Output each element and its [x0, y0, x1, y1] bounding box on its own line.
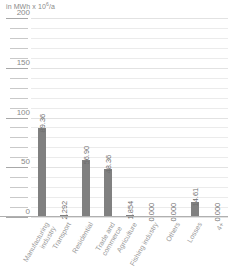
- gridline-minor: [31, 28, 228, 29]
- bar: [82, 160, 90, 217]
- y-tick-minor: [10, 157, 28, 158]
- bar-value-label: 56.90: [82, 146, 90, 165]
- bar-value-label: 14.61: [192, 188, 200, 207]
- gridline-minor: [31, 127, 228, 128]
- y-tick-minor: [10, 187, 28, 188]
- y-axis-unit-suffix: /a: [49, 3, 55, 10]
- y-tick-minor: [10, 108, 28, 109]
- gridline-minor: [31, 38, 228, 39]
- y-tick-minor: [10, 207, 28, 208]
- gridline-major: [31, 167, 228, 168]
- gridline-minor: [31, 108, 228, 109]
- gridline-major: [31, 68, 228, 69]
- gridline-minor: [31, 88, 228, 89]
- x-axis-label-line: Losses: [186, 221, 203, 244]
- x-axis-label-line: Residential: [70, 221, 93, 254]
- x-axis-baseline: [0, 216, 228, 217]
- y-tick-major: [6, 118, 28, 119]
- bar-value-label: 48.36: [104, 155, 112, 174]
- bar-value-label: 0.000: [170, 203, 178, 222]
- gridline-major: [31, 118, 228, 119]
- gridline-minor: [31, 78, 228, 79]
- gridline-minor: [31, 137, 228, 138]
- y-axis-label: 50: [4, 158, 30, 166]
- y-tick-minor: [10, 147, 28, 148]
- y-tick-minor: [10, 127, 28, 128]
- y-tick-minor: [10, 177, 28, 178]
- bar: [104, 169, 112, 217]
- bar: [38, 128, 46, 217]
- x-axis-label-line: Transport: [51, 221, 72, 250]
- gridline-minor: [31, 177, 228, 178]
- gridline-minor: [31, 48, 228, 49]
- gridline-minor: [31, 157, 228, 158]
- y-tick-minor: [10, 137, 28, 138]
- y-axis-label: 0: [4, 208, 30, 216]
- x-axis-label-line: 4+: [215, 221, 225, 231]
- y-axis-label: 100: [4, 109, 30, 117]
- gridline-minor: [31, 98, 228, 99]
- y-tick-minor: [10, 98, 28, 99]
- y-tick-major: [6, 68, 28, 69]
- y-tick-minor: [10, 197, 28, 198]
- bar-value-label: 0.000: [148, 203, 156, 222]
- gridline-major: [31, 18, 228, 19]
- y-tick-major: [6, 217, 28, 218]
- plot-area: 89.362.29256.9048.361.8540.0000.00014.61…: [31, 18, 228, 217]
- bar-value-label: 89.36: [38, 114, 46, 133]
- y-tick-minor: [10, 38, 28, 39]
- bar-value-label: 0.000: [214, 203, 222, 222]
- gridline-minor: [31, 147, 228, 148]
- y-tick-major: [6, 167, 28, 168]
- y-tick-minor: [10, 48, 28, 49]
- y-axis-label: 150: [4, 59, 30, 67]
- bar-chart: in MWh x 106/a 89.362.29256.9048.361.854…: [0, 0, 233, 280]
- y-tick-minor: [10, 28, 28, 29]
- gridline-minor: [31, 58, 228, 59]
- y-tick-minor: [10, 88, 28, 89]
- x-axis-label-line: Others: [165, 221, 182, 243]
- y-tick-minor: [10, 58, 28, 59]
- y-tick-minor: [10, 78, 28, 79]
- y-axis-label: 200: [4, 9, 30, 17]
- y-tick-major: [6, 18, 28, 19]
